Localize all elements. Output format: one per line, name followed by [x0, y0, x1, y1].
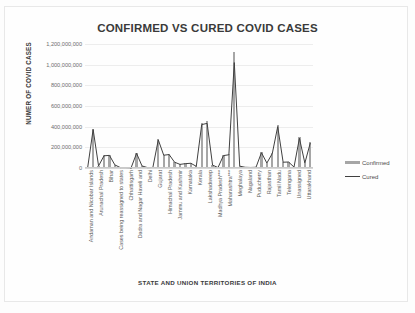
y-axis-tick-label: 1,000,000,000	[26, 62, 82, 68]
y-axis-tick-label: 0	[26, 165, 82, 171]
x-axis-line	[85, 167, 313, 168]
x-axis-tick-label: Puducherry	[257, 170, 262, 198]
x-axis-tick-label: Andaman and Nicobar Islands	[89, 170, 94, 242]
x-axis-tick-label: Chhattisgarh	[129, 170, 134, 201]
x-axis-tick-label: Arunachal Pradesh	[99, 170, 104, 216]
x-axis-tick-label: Jammu and Kashmir	[178, 170, 183, 219]
bar-swatch-icon	[344, 157, 360, 168]
y-axis-tick-labels: 1,200,000,0001,000,000,000800,000,000600…	[26, 44, 82, 168]
y-axis-tick-label: 1,200,000,000	[26, 41, 82, 47]
x-axis-tick-label: Bihar	[109, 170, 114, 183]
x-axis-tick-label: Tamil Nadu	[277, 170, 282, 197]
chart-legend: Confirmed Cured	[344, 157, 412, 185]
x-axis-tick-label: Gujarat	[158, 170, 163, 188]
x-axis-tick-label: Maharashtra***	[228, 170, 233, 207]
y-axis-tick-label: 400,000,000	[26, 124, 82, 130]
legend-item-confirmed: Confirmed	[344, 157, 412, 168]
line-swatch-icon	[344, 171, 360, 182]
cured-line-series	[85, 44, 313, 168]
y-axis-tick-label: 800,000,000	[26, 82, 82, 88]
x-axis-tick-label: Rajasthan	[267, 170, 272, 194]
x-axis-tick-label: Meghalaya	[238, 170, 243, 196]
x-axis-tick-label: Himachal Pradesh	[168, 170, 173, 214]
y-axis-tick-label: 200,000,000	[26, 144, 82, 150]
y-axis-tick-label: 600,000,000	[26, 103, 82, 109]
x-axis-tick-label: Telengana	[287, 170, 292, 195]
x-axis-tick-label: Cases being reassigned to states	[119, 170, 124, 250]
x-axis-tick-label: Unassigned	[297, 170, 302, 198]
x-axis-title: STATE AND UNION TERRITORIES OF INDIA	[0, 279, 415, 286]
x-axis-tick-labels: Andaman and Nicobar IslandsArunachal Pra…	[85, 170, 313, 270]
x-axis-tick-label: Dadra and Nagar Haveli and	[138, 170, 143, 238]
x-axis-tick-label: Delhi	[148, 170, 153, 182]
x-axis-tick-label: Karnataka	[188, 170, 193, 195]
x-axis-tick-label: Nagaland	[248, 170, 253, 193]
legend-label-cured: Cured	[362, 174, 378, 180]
plot-area	[85, 44, 313, 168]
x-axis-tick-label: Uttarakhand	[307, 170, 312, 199]
x-axis-tick-label: Lakshadweep	[208, 170, 213, 203]
x-axis-tick-label: Madhya Pradesh***	[218, 170, 223, 217]
x-axis-tick-label: Kerala	[198, 170, 203, 186]
legend-label-confirmed: Confirmed	[362, 160, 390, 166]
chart-title: CONFIRMED VS CURED COVID CASES	[0, 22, 415, 34]
chart-page: CONFIRMED VS CURED COVID CASES NUMER OF …	[0, 0, 415, 313]
legend-item-cured: Cured	[344, 171, 412, 182]
